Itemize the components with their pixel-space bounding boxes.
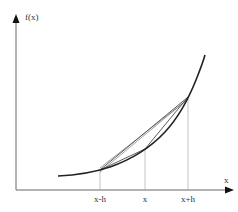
y-axis-arrow-icon: [13, 14, 20, 23]
x-axis-arrow-icon: [225, 187, 234, 194]
x-axis-label: x: [224, 175, 229, 185]
secant-forward: [145, 97, 188, 149]
secant-extra: [100, 99, 188, 172]
secant-backward: [100, 149, 145, 170]
tick-label-x: x: [143, 194, 148, 204]
diagram-canvas: f(x) x x-h x x+h: [0, 0, 238, 212]
function-curve: [58, 55, 205, 176]
y-axis-label: f(x): [25, 12, 39, 22]
tick-label-x-plus-h: x+h: [181, 194, 196, 204]
tangent-line: [100, 99, 188, 168]
tick-label-x-minus-h: x-h: [94, 194, 106, 204]
